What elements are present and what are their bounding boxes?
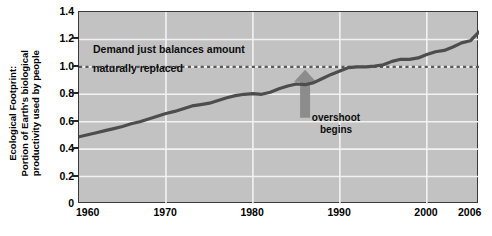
x-tick-label: 1980 xyxy=(240,206,263,218)
reference-line-label-line-1: Demand just balances amount xyxy=(93,42,245,56)
y-tick-label: 0.2 xyxy=(40,171,74,181)
y-tick-label: 0 xyxy=(40,198,74,208)
y-axis-title-line-1: Ecological Footprint: xyxy=(7,13,19,213)
overshoot-annotation-line-2: begins xyxy=(276,124,396,136)
chart-figure: Ecological Footprint: Portion of Earth's… xyxy=(0,0,492,236)
y-tick-mark xyxy=(72,37,79,39)
overshoot-annotation: overshoot begins xyxy=(276,112,396,136)
reference-line-label-line-2: naturally replaced xyxy=(93,61,183,75)
y-tick-label: 0.4 xyxy=(40,143,74,153)
overshoot-annotation-line-1: overshoot xyxy=(276,112,396,124)
x-tick-label: 2000 xyxy=(414,206,437,218)
y-tick-label: 1.2 xyxy=(40,33,74,43)
y-tick-label: 1.0 xyxy=(40,61,74,71)
x-tick-label: 1990 xyxy=(327,206,350,218)
plot-area: Demand just balances amount naturally re… xyxy=(78,11,478,203)
y-tick-label: 0.8 xyxy=(40,88,74,98)
x-tick-label: 1960 xyxy=(76,206,99,218)
y-tick-mark xyxy=(72,147,79,149)
plot-svg xyxy=(79,12,479,204)
y-tick-label: 1.4 xyxy=(40,6,74,16)
x-tick-label: 1970 xyxy=(154,206,177,218)
y-tick-mark xyxy=(72,92,79,94)
y-tick-mark xyxy=(72,120,79,122)
y-tick-label: 0.6 xyxy=(40,116,74,126)
y-tick-mark xyxy=(72,65,79,67)
y-axis-title: Ecological Footprint: Portion of Earth's… xyxy=(0,0,40,210)
y-axis-title-line-2: Portion of Earth's biological xyxy=(18,13,30,213)
x-tick-label: 2006 xyxy=(458,206,481,218)
y-axis-tick-labels: 1.41.21.00.80.60.40.20 xyxy=(38,0,74,236)
y-tick-mark xyxy=(72,175,79,177)
